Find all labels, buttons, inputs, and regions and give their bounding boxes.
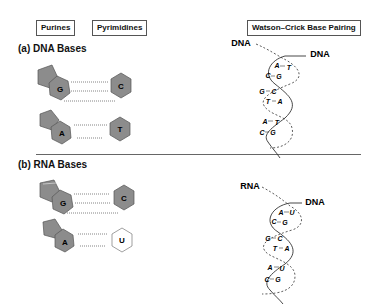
bp2-right: G bbox=[276, 73, 282, 80]
rna-dna-hybrid-helix: RNA DNA A U C G G C T A A U C G bbox=[240, 181, 325, 304]
bp4-right: A bbox=[283, 245, 289, 252]
bp6-right: G bbox=[270, 129, 276, 136]
bp1-right: U bbox=[289, 209, 295, 216]
bp2-left: C bbox=[271, 218, 277, 225]
bp1-left: A bbox=[273, 62, 279, 69]
helix-right-strand-label: DNA bbox=[310, 49, 330, 59]
bp2-right: G bbox=[282, 219, 288, 226]
bp4-left: T bbox=[266, 98, 271, 105]
cytosine-letter: C bbox=[121, 194, 127, 203]
uracil-letter: U bbox=[119, 236, 125, 245]
adenine-letter: A bbox=[62, 238, 68, 247]
adenine-letter: A bbox=[59, 129, 65, 138]
dna-gc-pair: G C bbox=[38, 65, 131, 101]
bp5-left: A bbox=[261, 118, 267, 125]
guanine-letter: G bbox=[57, 85, 63, 94]
bp4-left: T bbox=[273, 245, 278, 252]
bp5-right: U bbox=[279, 265, 285, 272]
bp3-left: G bbox=[259, 88, 265, 95]
helix-left-strand-label: DNA bbox=[231, 38, 251, 48]
bp4-right: A bbox=[276, 98, 282, 105]
bp3-left: G bbox=[265, 235, 271, 242]
base-pairing-diagram: G C A T G C bbox=[0, 0, 374, 305]
rna-gc-pair: G C bbox=[40, 180, 134, 214]
bp3-right: C bbox=[271, 88, 277, 95]
helix-right-strand-label: DNA bbox=[305, 197, 325, 207]
cytosine-letter: C bbox=[118, 82, 124, 91]
bp2-left: C bbox=[265, 72, 271, 79]
bp1-right: T bbox=[287, 64, 292, 71]
dna-at-pair: A T bbox=[40, 110, 130, 144]
dna-double-helix: DNA DNA A T C G G C T A A T C G bbox=[231, 38, 330, 158]
thymine-letter: T bbox=[118, 125, 123, 134]
bp1-left: A bbox=[277, 209, 283, 216]
bp5-left: A bbox=[266, 264, 272, 271]
bp5-right: T bbox=[275, 119, 280, 126]
bp6-right: G bbox=[275, 276, 281, 283]
rna-au-pair: A U bbox=[43, 219, 132, 252]
guanine-letter: G bbox=[60, 199, 66, 208]
helix-left-strand-label: RNA bbox=[240, 181, 260, 191]
bp6-left: C bbox=[259, 129, 265, 136]
